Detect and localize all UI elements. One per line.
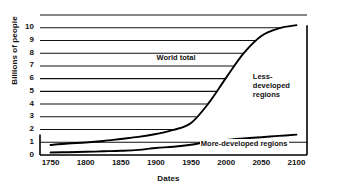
- y-tick-7: 7: [20, 60, 34, 69]
- annotation-less-line3: regions: [253, 90, 280, 99]
- y-tick-3: 3: [20, 111, 34, 120]
- y-tick-0: 0: [20, 150, 34, 159]
- annotation-less-line1: Less-: [253, 72, 273, 81]
- y-tick-8: 8: [20, 48, 34, 57]
- x-tick-2000: 2000: [209, 158, 243, 167]
- x-tick-1800: 1800: [69, 158, 103, 167]
- y-tick-2: 2: [20, 124, 34, 133]
- annotation-world-total: World total: [157, 53, 196, 62]
- y-tick-5: 5: [20, 86, 34, 95]
- x-tick-1900: 1900: [139, 158, 173, 167]
- x-tick-1750: 1750: [34, 158, 68, 167]
- annotation-less-line2: developed: [253, 81, 290, 90]
- x-tick-2050: 2050: [244, 158, 278, 167]
- annotation-less-developed-regions: Less- developed regions: [253, 72, 299, 99]
- x-tick-1850: 1850: [104, 158, 138, 167]
- y-axis-title: Billions of people: [10, 11, 19, 91]
- y-tick-9: 9: [20, 35, 34, 44]
- y-tick-10: 10: [20, 22, 34, 31]
- annotation-more-developed-regions: More-developed regions: [200, 139, 289, 148]
- y-tick-6: 6: [20, 73, 34, 82]
- x-axis-title: Dates: [0, 174, 337, 183]
- x-tick-2100: 2100: [279, 158, 313, 167]
- y-tick-4: 4: [20, 99, 34, 108]
- population-projection-chart: Billions of people Dates 012345678910 17…: [0, 0, 337, 191]
- x-tick-1950: 1950: [174, 158, 208, 167]
- y-tick-1: 1: [20, 137, 34, 146]
